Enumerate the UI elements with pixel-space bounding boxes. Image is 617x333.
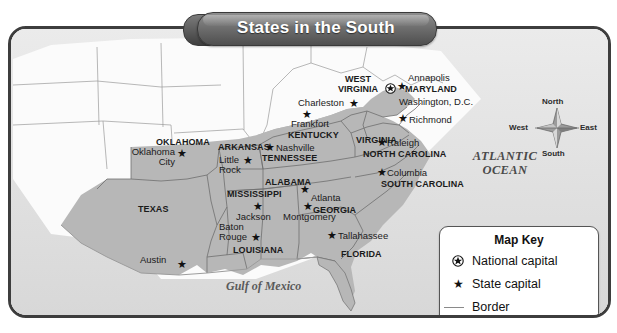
gulf-of-mexico-label: Gulf of Mexico bbox=[226, 279, 301, 294]
map-key-label-national-capital: National capital bbox=[472, 254, 557, 268]
map-title-banner: States in the South bbox=[183, 12, 435, 46]
map-frame: OKLAHOMA TEXAS ARKANSAS LOUISIANA MISSIS… bbox=[8, 26, 611, 318]
state-label-west-virginia-line2: VIRGINIA bbox=[331, 85, 385, 95]
state-capital-star-icon-austin: ★ bbox=[177, 259, 187, 270]
map-key-label-border: Border bbox=[472, 300, 510, 314]
state-label-south-carolina: SOUTH CAROLINA bbox=[381, 179, 464, 189]
state-capital-star-icon-tallahassee: ★ bbox=[327, 230, 337, 241]
state-label-arkansas: ARKANSAS bbox=[218, 142, 270, 152]
state-capital-star-icon-annapolis: ★ bbox=[397, 81, 407, 92]
state-capital-star-icon-raleigh: ★ bbox=[377, 137, 387, 148]
map-key-item-national-capital: National capital bbox=[452, 254, 557, 268]
city-label-baton-rouge: Baton Rouge bbox=[219, 222, 247, 242]
city-label-little-rock-line2: Rock bbox=[219, 165, 241, 175]
compass-star-icon bbox=[535, 107, 579, 149]
city-label-washington-dc: Washington, D.C. bbox=[399, 96, 473, 107]
national-capital-star-icon bbox=[452, 255, 464, 267]
map-key-label-state-capital: State capital bbox=[472, 277, 541, 291]
compass-south-label: South bbox=[542, 149, 565, 158]
city-label-annapolis: Annapolis bbox=[408, 72, 450, 83]
city-label-atlanta: Atlanta bbox=[311, 192, 341, 203]
city-label-nashville: Nashville bbox=[276, 142, 315, 153]
city-label-raleigh: Raleigh bbox=[387, 137, 419, 148]
state-label-west-virginia: WEST VIRGINIA bbox=[331, 75, 385, 94]
compass-rose: North South West East bbox=[509, 97, 605, 159]
state-label-tennessee: TENNESSEE bbox=[262, 153, 317, 163]
map-key-heading: Map Key bbox=[440, 233, 598, 247]
state-capital-star-icon: ★ bbox=[452, 277, 464, 291]
border-line-icon bbox=[444, 307, 464, 308]
state-capital-star-icon-atlanta: ★ bbox=[300, 184, 310, 195]
city-label-oklahoma-city: Oklahoma City bbox=[119, 147, 175, 167]
compass-west-label: West bbox=[509, 123, 528, 132]
state-label-maryland: MARYLAND bbox=[405, 84, 457, 94]
city-label-charleston: Charleston bbox=[298, 97, 344, 108]
map-title-text: States in the South bbox=[197, 12, 435, 44]
compass-north-label: North bbox=[542, 97, 563, 106]
state-capital-star-icon-richmond: ★ bbox=[398, 113, 408, 124]
state-label-mississippi: MISSISSIPPI bbox=[227, 189, 282, 199]
national-capital-star-icon-washington-dc bbox=[385, 83, 396, 94]
city-label-montgomery: Montgomery bbox=[283, 211, 336, 222]
state-capital-star-icon-jackson: ★ bbox=[253, 201, 263, 212]
map-figure: OKLAHOMA TEXAS ARKANSAS LOUISIANA MISSIS… bbox=[0, 0, 617, 333]
state-capital-star-icon-columbia: ★ bbox=[377, 167, 387, 178]
map-key-box: Map Key National capital ★ State capital… bbox=[439, 226, 599, 318]
city-label-oklahoma-city-line2: City bbox=[119, 157, 175, 167]
state-capital-star-icon-oklahoma-city: ★ bbox=[177, 148, 187, 159]
atlantic-ocean-line2: OCEAN bbox=[453, 163, 557, 177]
city-label-tallahassee: Tallahassee bbox=[338, 230, 388, 241]
state-capital-star-icon-nashville: ★ bbox=[265, 142, 275, 153]
state-label-texas: TEXAS bbox=[138, 204, 169, 214]
state-capital-star-icon-baton-rouge: ★ bbox=[251, 232, 261, 243]
city-label-austin: Austin bbox=[140, 254, 166, 265]
state-capital-star-icon-frankfort: ★ bbox=[302, 109, 312, 120]
city-label-jackson: Jackson bbox=[236, 211, 271, 222]
state-label-louisiana: LOUISIANA bbox=[233, 245, 283, 255]
state-label-kentucky: KENTUCKY bbox=[288, 130, 339, 140]
city-label-baton-rouge-line2: Rouge bbox=[219, 232, 247, 242]
compass-east-label: East bbox=[580, 123, 597, 132]
state-capital-star-icon-little-rock: ★ bbox=[243, 155, 253, 166]
city-label-columbia: Columbia bbox=[387, 167, 427, 178]
state-label-north-carolina: NORTH CAROLINA bbox=[363, 149, 446, 159]
map-key-item-state-capital: ★ State capital bbox=[452, 277, 541, 291]
map-key-item-border: Border bbox=[444, 300, 510, 314]
city-label-richmond: Richmond bbox=[409, 114, 452, 125]
state-label-florida: FLORIDA bbox=[341, 249, 382, 259]
state-capital-star-icon-charleston: ★ bbox=[349, 98, 359, 109]
city-label-little-rock: Little Rock bbox=[219, 155, 241, 175]
